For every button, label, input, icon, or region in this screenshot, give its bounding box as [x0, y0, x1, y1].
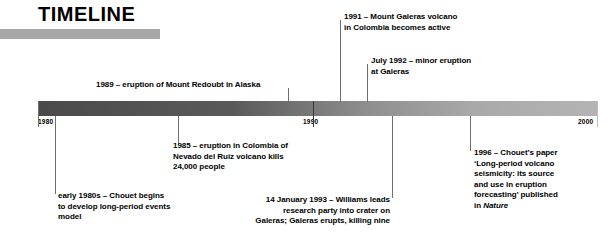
event-1991-line1: 1991 – Mount Galeras volcano — [344, 12, 544, 23]
event-1993-line1: 14 January 1993 – Williams leads — [222, 195, 390, 206]
axis-tick-label-2000: 2000 — [578, 118, 593, 125]
event-1996-line6: in Nature — [474, 201, 602, 212]
axis-tick-label-1980: 1980 — [38, 118, 53, 125]
leader-line-early-1980s — [55, 116, 56, 194]
event-callout-1991: 1991 – Mount Galeras volcano in Colombia… — [344, 12, 544, 33]
event-early-1980s-line2: to develop long-period events — [58, 202, 203, 213]
leader-line-1991 — [340, 20, 341, 102]
event-1985-line2: Nevado del Ruiz volcano kills — [173, 152, 338, 163]
event-1996-line3: seismicity: its source — [474, 169, 602, 180]
event-callout-1996: 1996 – Chouet’s paper ‘Long-period volca… — [474, 148, 602, 211]
event-1996-line2: ‘Long-period volcano — [474, 159, 602, 170]
event-1985-line3: 24,000 people — [173, 162, 338, 173]
event-callout-1993: 14 January 1993 – Williams leads researc… — [222, 195, 390, 227]
axis-tick-mark-1980 — [38, 101, 39, 127]
event-1993-line2: research party into crater on — [222, 206, 390, 217]
event-1996-line4: and use in eruption — [474, 180, 602, 191]
event-callout-1989: 1989 – eruption of Mount Redoubt in Alas… — [96, 80, 306, 91]
event-early-1980s-line3: model — [58, 212, 203, 223]
page-title: TIMELINE — [38, 2, 135, 26]
event-1991-line2: in Colombia becomes active — [344, 23, 544, 34]
timeline-axis-bar — [38, 101, 598, 116]
event-1996-line1: 1996 – Chouet’s paper — [474, 148, 602, 159]
timeline-figure: TIMELINE 1980 1990 2000 1991 – Mount Gal… — [0, 0, 616, 235]
event-1993-line3: Galeras; Galeras erupts, killing nine — [222, 216, 390, 227]
title-rule — [0, 29, 160, 39]
axis-tick-label-1990: 1990 — [303, 118, 318, 125]
event-1996-line5: forecasting’ published — [474, 190, 602, 201]
axis-tick-mark-2000 — [597, 101, 598, 127]
event-july-1992-line2: at Galeras — [371, 67, 551, 78]
event-callout-early-1980s: early 1980s – Chouet begins to develop l… — [58, 191, 203, 223]
leader-line-1993 — [392, 116, 393, 198]
event-1996-line6-prefix: in — [474, 201, 483, 210]
event-callout-1985: 1985 – eruption in Colombia of Nevado de… — [173, 141, 338, 173]
leader-line-1985 — [178, 116, 179, 144]
leader-line-july-1992 — [367, 64, 368, 102]
event-1996-journal-name: Nature — [483, 201, 508, 210]
event-1985-line1: 1985 – eruption in Colombia of — [173, 141, 338, 152]
event-early-1980s-line1: early 1980s – Chouet begins — [58, 191, 203, 202]
leader-line-1996 — [470, 116, 471, 151]
event-july-1992-line1: July 1992 – minor eruption — [371, 56, 551, 67]
event-1989-line1: 1989 – eruption of Mount Redoubt in Alas… — [96, 80, 306, 91]
axis-tick-mark-1990 — [313, 101, 314, 127]
event-callout-july-1992: July 1992 – minor eruption at Galeras — [371, 56, 551, 77]
